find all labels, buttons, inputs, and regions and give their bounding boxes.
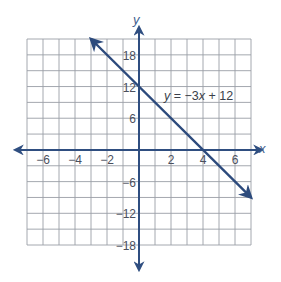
x-tick-label: −4 — [68, 153, 82, 167]
y-axis-label: y — [132, 12, 141, 27]
axes — [15, 27, 262, 270]
x-axis-label: x — [258, 141, 266, 156]
x-tick-label: 2 — [168, 153, 175, 167]
coordinate-plane: −6−4−224618126−6−12−18 y = −3x + 12 x y — [0, 0, 281, 282]
y-tick-label: −18 — [116, 239, 137, 253]
y-tick-label: −6 — [122, 176, 136, 190]
y-tick-label: 6 — [129, 112, 136, 126]
x-tick-label: −6 — [36, 153, 50, 167]
equation-label: y = −3x + 12 — [163, 89, 233, 103]
y-tick-label: −12 — [116, 207, 137, 221]
equation-text: y = −3x + 12 — [163, 89, 233, 103]
x-tick-label: −2 — [100, 153, 114, 167]
x-tick-label: 6 — [232, 153, 239, 167]
x-tick-label: 4 — [200, 153, 207, 167]
y-tick-label: 18 — [123, 49, 137, 63]
